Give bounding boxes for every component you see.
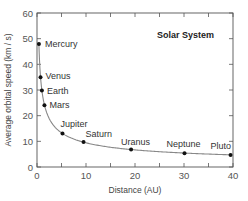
point-label-pluto: Pluto bbox=[211, 141, 232, 151]
point-label-neptune: Neptune bbox=[166, 139, 200, 149]
orbital-speed-chart: 0102030400102030405060 MercuryVenusEarth… bbox=[0, 0, 248, 201]
y-tick-label: 30 bbox=[22, 85, 33, 96]
data-point-pluto bbox=[229, 153, 233, 157]
y-tick-label: 10 bbox=[22, 136, 33, 147]
data-point-earth bbox=[40, 89, 44, 93]
x-axis-label: Distance (AU) bbox=[109, 185, 162, 195]
data-point-saturn bbox=[82, 140, 86, 144]
data-point-venus bbox=[39, 75, 43, 79]
point-label-saturn: Saturn bbox=[86, 129, 113, 139]
point-label-venus: Venus bbox=[46, 71, 72, 81]
y-tick-label: 40 bbox=[22, 59, 33, 70]
x-tick-label: 0 bbox=[34, 170, 39, 181]
point-label-jupiter: Jupiter bbox=[60, 119, 87, 129]
y-tick-label: 60 bbox=[22, 8, 33, 19]
y-tick-label: 20 bbox=[22, 110, 33, 121]
y-axis-label: Average orbital speed (km / s) bbox=[3, 33, 13, 146]
point-label-earth: Earth bbox=[47, 86, 69, 96]
chart-title: Solar System bbox=[157, 30, 214, 40]
point-label-uranus: Uranus bbox=[121, 137, 151, 147]
point-label-mercury: Mercury bbox=[45, 39, 78, 49]
data-point-mercury bbox=[37, 42, 41, 46]
data-point-jupiter bbox=[60, 131, 64, 135]
x-tick-label: 10 bbox=[81, 170, 92, 181]
y-tick-label: 0 bbox=[28, 162, 33, 173]
data-point-neptune bbox=[182, 151, 186, 155]
x-tick-label: 40 bbox=[228, 170, 239, 181]
point-label-mars: Mars bbox=[49, 100, 69, 110]
y-tick-label: 50 bbox=[22, 33, 33, 44]
data-point-uranus bbox=[129, 148, 133, 152]
x-tick-label: 30 bbox=[179, 170, 190, 181]
x-tick-label: 20 bbox=[130, 170, 141, 181]
data-point-mars bbox=[42, 103, 46, 107]
data-points: MercuryVenusEarthMarsJupiterSaturnUranus… bbox=[37, 39, 233, 157]
